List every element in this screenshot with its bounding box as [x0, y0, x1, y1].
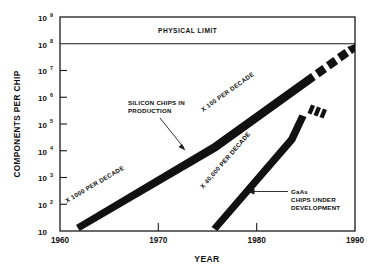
- ytick-1e1: 10: [38, 228, 47, 237]
- y-axis-tick-labels: 10 9 10 8 10 7 10 6 10 5 10 4 10 3 10 2: [38, 12, 53, 237]
- gaas-note-line-2: CHIPS UNDER: [291, 196, 336, 203]
- svg-text:10: 10: [38, 41, 47, 50]
- ytick-1e5: 10 5: [38, 118, 53, 130]
- svg-text:10: 10: [38, 201, 47, 210]
- svg-text:10: 10: [38, 67, 47, 76]
- svg-text:5: 5: [50, 118, 53, 124]
- svg-text:7: 7: [50, 65, 53, 71]
- ytick-1e7: 10 7: [38, 65, 53, 77]
- xtick-1980: 1980: [248, 236, 267, 245]
- svg-text:8: 8: [50, 38, 53, 44]
- svg-text:10: 10: [38, 174, 47, 183]
- ytick-1e8: 10 8: [38, 38, 53, 50]
- svg-text:10: 10: [38, 94, 47, 103]
- xtick-1970: 1970: [149, 236, 168, 245]
- svg-text:3: 3: [50, 172, 53, 178]
- ytick-1e4: 10 4: [38, 145, 53, 157]
- svg-text:2: 2: [50, 199, 53, 205]
- svg-text:10: 10: [38, 14, 47, 23]
- svg-text:6: 6: [50, 92, 53, 98]
- svg-text:10: 10: [38, 121, 47, 130]
- xtick-1990: 1990: [346, 236, 365, 245]
- xtick-1960: 1960: [51, 236, 70, 245]
- ytick-1e9: 10 9: [38, 12, 53, 24]
- x-axis-title: YEAR: [194, 254, 220, 264]
- silicon-note-line-1: SILICON CHIPS IN: [128, 99, 185, 106]
- gaas-note-line-1: GaAs: [291, 188, 308, 195]
- gaas-note-line-3: DEVELOPMENT: [291, 204, 340, 211]
- svg-text:4: 4: [50, 145, 53, 151]
- y-axis-title: COMPONENTS PER CHIP: [13, 70, 22, 177]
- physical-limit-label: PHYSICAL LIMIT: [158, 27, 217, 34]
- chart-figure: PHYSICAL LIMIT 10 9 10 8 10 7 10 6 10 5: [0, 0, 380, 276]
- svg-text:10: 10: [38, 148, 47, 157]
- svg-text:9: 9: [50, 12, 53, 18]
- silicon-note-line-2: PRODUCTION: [128, 107, 172, 114]
- ytick-1e6: 10 6: [38, 92, 53, 104]
- ytick-1e3: 10 3: [38, 172, 53, 184]
- x-axis-tick-labels: 1960 1970 1980 1990: [51, 236, 365, 245]
- ytick-1e2: 10 2: [38, 199, 53, 211]
- svg-text:10: 10: [38, 228, 47, 237]
